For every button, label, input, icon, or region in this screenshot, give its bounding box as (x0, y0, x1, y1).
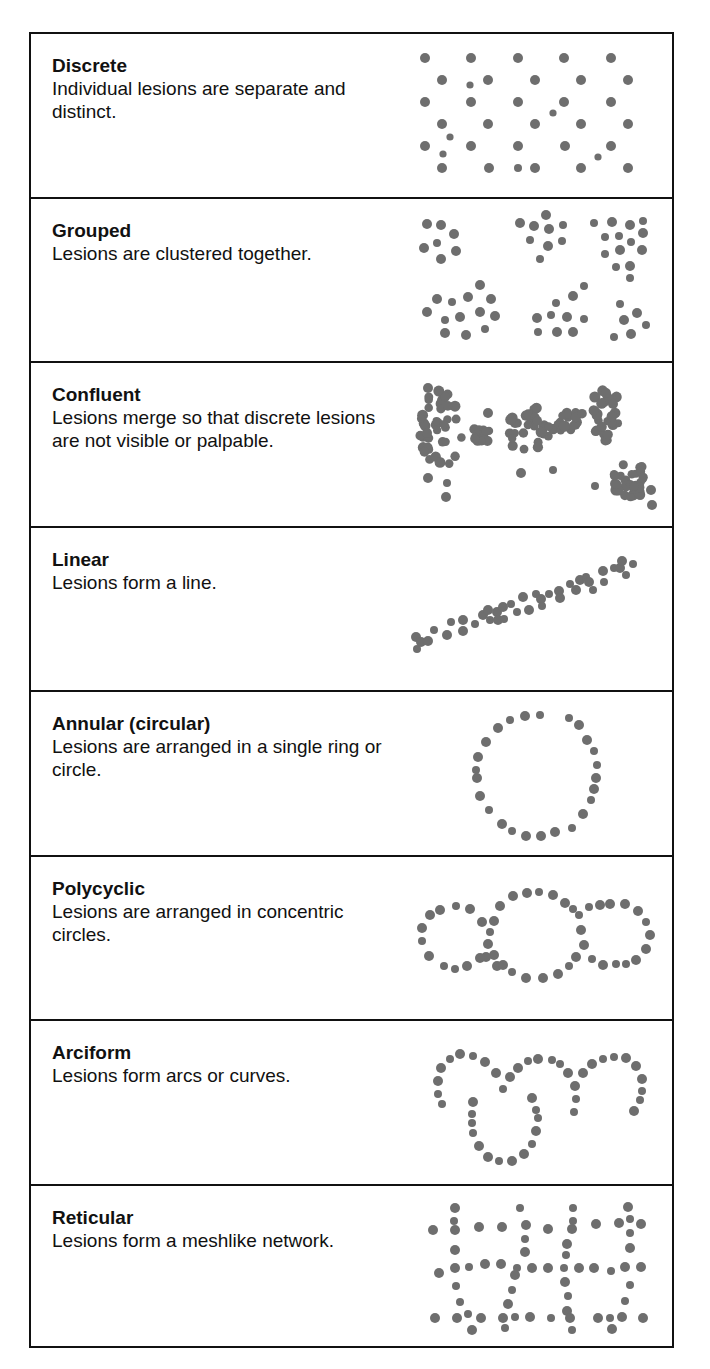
configuration-row-confluent: Confluent Lesions merge so that discrete… (31, 363, 672, 528)
configuration-description: Lesions are arranged in a single ring or… (52, 735, 392, 781)
configuration-description: Individual lesions are separate and dist… (52, 77, 392, 123)
configuration-row-linear: Linear Lesions form a line. (31, 528, 672, 692)
confluent-dots-icon (401, 363, 671, 528)
arciform-pattern-illustration (401, 1021, 671, 1184)
configuration-title: Annular (circular) (52, 712, 392, 735)
configuration-description: Lesions merge so that discrete lesions a… (52, 406, 392, 452)
row-text: Confluent Lesions merge so that discrete… (52, 383, 392, 452)
configuration-title: Linear (52, 548, 392, 571)
reticular-pattern-illustration (401, 1186, 671, 1350)
row-text: Discrete Individual lesions are separate… (52, 54, 392, 123)
polycyclic-pattern-illustration (401, 857, 671, 1019)
configuration-title: Discrete (52, 54, 392, 77)
configuration-title: Polycyclic (52, 877, 392, 900)
arciform-dots-icon (401, 1021, 671, 1186)
configuration-title: Reticular (52, 1206, 392, 1229)
lesion-configuration-table: Discrete Individual lesions are separate… (29, 32, 674, 1348)
configuration-title: Grouped (52, 219, 392, 242)
annular-pattern-illustration (401, 692, 671, 855)
row-text: Polycyclic Lesions are arranged in conce… (52, 877, 392, 946)
configuration-row-reticular: Reticular Lesions form a meshlike networ… (31, 1186, 672, 1350)
configuration-description: Lesions form arcs or curves. (52, 1064, 392, 1087)
annular-dots-icon (401, 692, 671, 857)
configuration-description: Lesions are arranged in concentric circl… (52, 900, 392, 946)
linear-pattern-illustration (401, 528, 671, 690)
row-text: Linear Lesions form a line. (52, 548, 392, 594)
configuration-title: Arciform (52, 1041, 392, 1064)
grouped-dots-icon (401, 199, 671, 363)
linear-dots-icon (401, 528, 671, 692)
configuration-description: Lesions are clustered together. (52, 242, 392, 265)
configuration-row-annular: Annular (circular) Lesions are arranged … (31, 692, 672, 857)
discrete-pattern-illustration (401, 34, 671, 197)
configuration-description: Lesions form a meshlike network. (52, 1229, 392, 1252)
configuration-description: Lesions form a line. (52, 571, 392, 594)
row-text: Annular (circular) Lesions are arranged … (52, 712, 392, 781)
configuration-row-polycyclic: Polycyclic Lesions are arranged in conce… (31, 857, 672, 1021)
configuration-row-discrete: Discrete Individual lesions are separate… (31, 34, 672, 199)
row-text: Reticular Lesions form a meshlike networ… (52, 1206, 392, 1252)
grouped-pattern-illustration (401, 199, 671, 361)
discrete-dots-icon (401, 34, 671, 199)
reticular-dots-icon (401, 1186, 671, 1350)
configuration-title: Confluent (52, 383, 392, 406)
configuration-row-arciform: Arciform Lesions form arcs or curves. (31, 1021, 672, 1186)
polycyclic-dots-icon (401, 857, 671, 1021)
confluent-pattern-illustration (401, 363, 671, 526)
row-text: Arciform Lesions form arcs or curves. (52, 1041, 392, 1087)
configuration-row-grouped: Grouped Lesions are clustered together. (31, 199, 672, 363)
row-text: Grouped Lesions are clustered together. (52, 219, 392, 265)
